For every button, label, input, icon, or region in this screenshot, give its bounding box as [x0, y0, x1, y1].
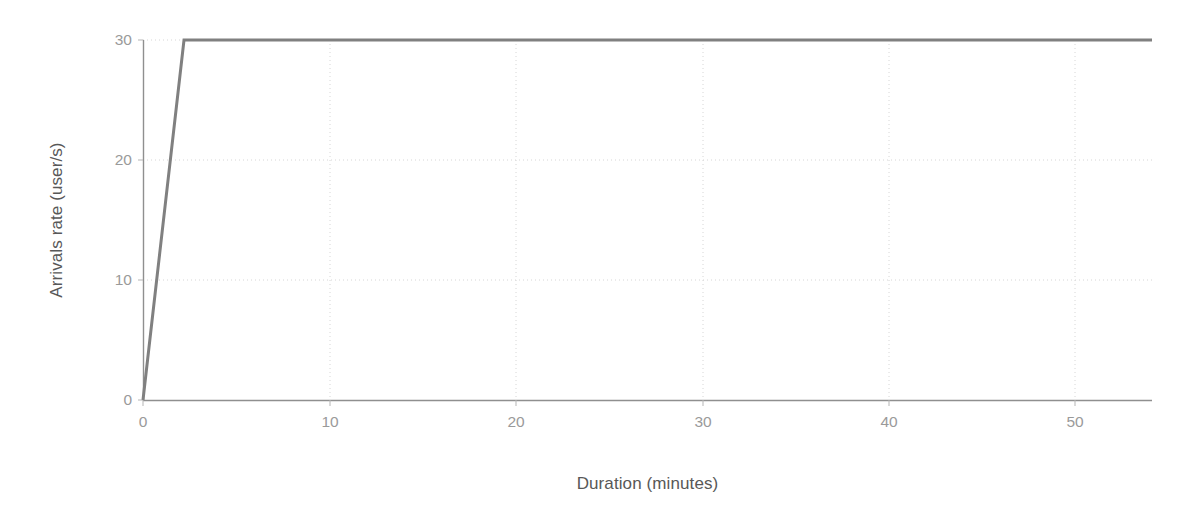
- y-tick-label-30: 30: [72, 32, 132, 48]
- y-tick-label-0: 0: [72, 392, 132, 408]
- chart-plot-area: [0, 0, 1185, 526]
- y-axis-title: Arrivals rate (user/s): [44, 40, 70, 400]
- series-arrivals-rate: [143, 40, 1152, 400]
- x-tick-label-0: 0: [113, 414, 173, 430]
- x-tick-label-30: 30: [673, 414, 733, 430]
- x-tick-label-40: 40: [859, 414, 919, 430]
- horizontal-gridlines: [143, 40, 1152, 280]
- vertical-gridlines: [330, 40, 1075, 400]
- y-tick-label-10: 10: [72, 272, 132, 288]
- x-axis-title: Duration (minutes): [143, 474, 1152, 494]
- x-tick-label-50: 50: [1045, 414, 1105, 430]
- x-tick-label-20: 20: [486, 414, 546, 430]
- arrivals-rate-chart: 30 20 10 0 0 10 20 30 40 50 Arrivals rat…: [0, 0, 1185, 526]
- y-tick-label-20: 20: [72, 152, 132, 168]
- y-axis-ticks: [138, 40, 143, 400]
- x-tick-label-10: 10: [300, 414, 360, 430]
